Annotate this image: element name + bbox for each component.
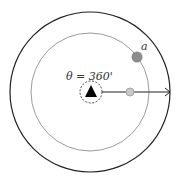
small-point <box>126 88 134 96</box>
center-triangle-icon <box>85 85 97 97</box>
orbit-diagram: a θ = 360' <box>0 0 178 182</box>
angle-label: θ = 360' <box>66 70 113 83</box>
point-a <box>132 52 143 63</box>
point-a-label: a <box>141 40 148 53</box>
